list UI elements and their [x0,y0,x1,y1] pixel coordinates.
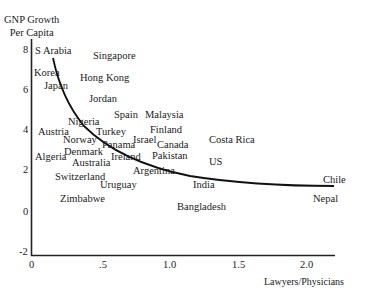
point-label-israel: Israel [133,134,156,145]
x-tick-0: 0 [29,259,34,270]
y-tick-2: 2 [23,164,28,175]
point-label-algeria: Algeria [35,151,67,162]
point-label-turkey: Turkey [96,126,126,137]
y-tick-4: 4 [23,124,28,135]
y-axis-title: GNP Growth Per Capita [4,13,59,39]
point-label-japan: Japan [44,80,68,91]
x-tick-2-0: 2.0 [300,259,313,270]
point-label-spain: Spain [114,109,138,120]
point-label-panama: Panama [102,139,135,150]
x-axis-title: Lawyers/Physicians [264,276,344,287]
point-label-jordan: Jordan [89,93,117,104]
point-label-india: India [193,179,215,190]
x-tick-1-0: 1.0 [163,259,176,270]
point-label-us: US [209,156,222,167]
point-label-chile: Chile [323,174,346,185]
point-label-argentina: Argentina [133,165,175,176]
point-label-denmark: Denmark [64,146,103,157]
point-label-s-arabia: S Arabia [35,45,71,56]
point-label-nigeria: Nigeria [68,116,100,127]
point-label-switzerland: Switzerland [55,171,105,182]
point-label-canada: Canada [157,139,189,150]
point-label-zimbabwe: Zimbabwe [60,193,105,204]
point-label-malaysia: Malaysia [145,109,184,120]
point-label-pakistan: Pakistan [152,150,188,161]
point-label-uruguay: Uruguay [100,179,137,190]
x-tick-1-5: 1.5 [232,259,245,270]
y-tick-6: 6 [23,84,28,95]
point-label-bangladesh: Bangladesh [177,201,226,212]
point-label-korea: Korea [34,67,60,78]
y-axis-title-line-1: GNP Growth [4,13,59,26]
point-label-hong-kong: Hong Kong [80,72,129,83]
point-label-ireland: Ireland [111,151,141,162]
point-label-australia: Australia [72,157,111,168]
y-axis-title-line-2: Per Capita [4,26,59,39]
y-tick-0: 0 [23,206,28,217]
y-tick-neg2: -2 [19,246,28,257]
y-tick-8: 8 [23,44,28,55]
point-label-norway: Norway [63,134,97,145]
point-label-costa-rica: Costa Rica [209,134,255,145]
point-label-nepal: Nepal [313,193,338,204]
point-label-singapore: Singapore [93,50,136,61]
x-tick-0-5: .5 [99,259,107,270]
